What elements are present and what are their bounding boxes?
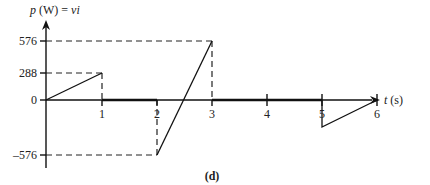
y-tick-288: 288 [19, 66, 37, 80]
y-tick-0: 0 [31, 93, 37, 107]
x-tick-4: 4 [264, 107, 270, 121]
x-axis-label: t (s) [384, 93, 403, 107]
power-chart: p (W) = vi 576 288 0 –576 1 2 3 4 5 6 t … [0, 0, 430, 185]
x-tick-6: 6 [374, 107, 380, 121]
y-axis-label: p (W) = vi [29, 3, 80, 17]
axis-ticks [40, 41, 377, 155]
x-tick-3: 3 [209, 107, 215, 121]
x-tick-2: 2 [154, 107, 160, 121]
y-tick-576: 576 [19, 34, 37, 48]
power-curve [46, 41, 377, 155]
x-tick-5: 5 [319, 107, 325, 121]
y-tick-neg576: –576 [12, 148, 37, 162]
x-tick-1: 1 [99, 107, 105, 121]
figure-caption: (d) [205, 169, 220, 183]
guide-lines [46, 41, 212, 155]
